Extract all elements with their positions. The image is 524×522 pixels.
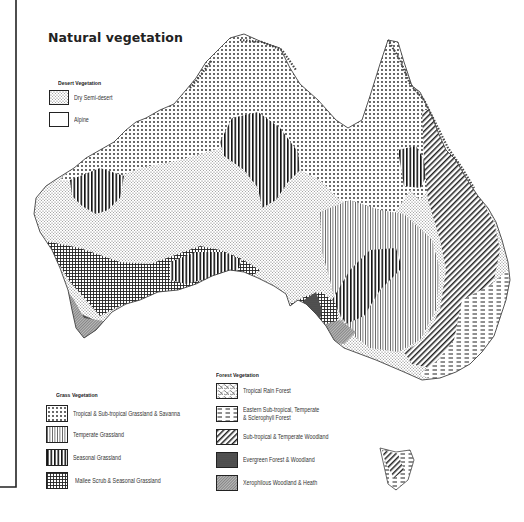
- legend-item-seasonal-grassland: Seasonal Grassland: [46, 449, 132, 466]
- swatch-dashes-icon: [216, 406, 238, 422]
- legend-item-tropical-rain-forest: Tropical Rain Forest: [216, 383, 301, 399]
- legend-heading-forest: Forest Vegetation: [216, 372, 259, 378]
- swatch-cross-hatch-icon: [216, 475, 238, 491]
- legend-item-xerophilous-woodland: Xerophilous Woodland & Heath: [216, 475, 334, 491]
- legend-item-woodland: Sub-tropical & Temperate Woodland: [216, 429, 347, 445]
- legend-item-alpine: Alpine: [49, 112, 92, 127]
- legend-heading-grass: Grass Vegetation: [56, 392, 98, 398]
- legend-item-evergreen-forest: Evergreen Forest & Woodland: [216, 452, 330, 468]
- swatch-thin-vertical-icon: [46, 426, 68, 443]
- legend-item-dry-semi-desert: Dry Semi-desert: [49, 90, 121, 105]
- legend-item-temperate-grassland: Temperate Grassland: [46, 426, 135, 443]
- swatch-scribble-icon: [216, 383, 238, 399]
- legend-item-mallee-scrub: Mallee Scrub & Seasonal Grassland: [46, 472, 179, 489]
- swatch-dots-icon: [46, 405, 68, 422]
- swatch-dark-fill-icon: [216, 452, 238, 468]
- legend-item-tropical-grassland: Tropical & Sub-tropical Grassland & Sava…: [46, 405, 204, 422]
- legend-item-eastern-forest: Eastern Sub-tropical, Temperate & Sclero…: [216, 406, 336, 422]
- swatch-grid-icon: [46, 472, 68, 489]
- frame-border: [0, 0, 16, 487]
- swatch-blank-icon: [49, 112, 69, 127]
- map-title: Natural vegetation: [48, 30, 183, 45]
- swatch-diagonal-icon: [216, 429, 238, 445]
- legend-heading-desert: Desert Vegetation: [58, 80, 101, 86]
- swatch-fine-dots-icon: [49, 90, 69, 105]
- swatch-bold-vertical-icon: [46, 449, 68, 466]
